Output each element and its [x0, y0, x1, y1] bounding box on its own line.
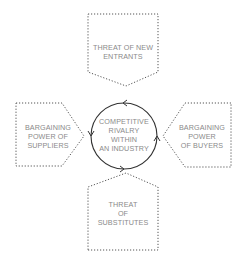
right-force-label: BARGAINING POWER OF BUYERS — [172, 123, 232, 150]
bottom-force-label: THREAT OF SUBSTITUTES — [88, 200, 158, 227]
left-force-label: BARGAINING POWER OF SUPPLIERS — [18, 123, 78, 150]
top-force-label: THREAT OF NEW ENTRANTS — [88, 43, 158, 61]
center-label: COMPETITIVE RIVALRY WITHIN AN INDUSTRY — [94, 117, 154, 153]
